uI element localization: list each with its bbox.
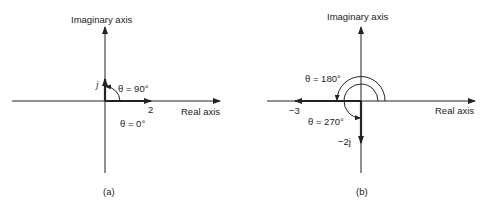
complex-plane-figure: Imaginary axis Real axis j θ = 90° 2 θ =… xyxy=(0,0,485,204)
angle-label-270: θ = 270° xyxy=(308,116,344,127)
angle-label-90: θ = 90° xyxy=(118,83,149,94)
vector-minus-3-label: −3 xyxy=(289,105,300,116)
panel-a-caption: (a) xyxy=(103,186,115,197)
vector-minus-2j-label: −2j xyxy=(338,136,351,147)
panel-b-caption: (b) xyxy=(356,186,368,197)
imaginary-axis-label: Imaginary axis xyxy=(71,14,132,25)
angle-label-180: θ = 180° xyxy=(305,73,341,84)
vector-2-label: 2 xyxy=(148,104,153,115)
angle-label-0: θ = 0° xyxy=(120,118,145,129)
imaginary-axis-label: Imaginary axis xyxy=(327,11,388,22)
panel-b: Imaginary axis Real axis θ = 180° −3 θ =… xyxy=(267,11,475,197)
real-axis-label: Real axis xyxy=(435,105,474,116)
vector-j-label: j xyxy=(94,80,99,90)
real-axis-label: Real axis xyxy=(181,106,220,117)
panel-a: Imaginary axis Real axis j θ = 90° 2 θ =… xyxy=(12,14,220,197)
